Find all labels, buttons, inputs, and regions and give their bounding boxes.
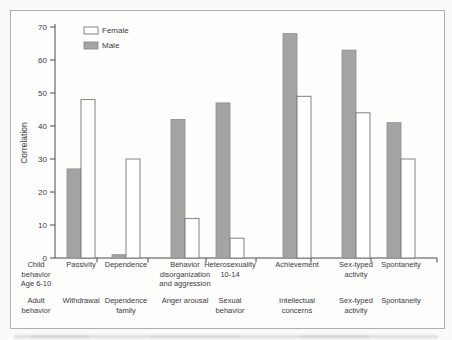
y-tick-label: 50 [38,89,47,98]
row-header-adult: Adult [27,296,45,305]
row-header-child: Age 6-10 [21,279,51,288]
child-behavior-label: and aggression [159,279,210,288]
row-header-child: Child [27,260,44,269]
y-tick-label: 10 [38,221,47,230]
y-tick-label: 60 [38,56,47,65]
child-behavior-label: Sex-typed [339,260,373,269]
adult-behavior-label: Withdrawal [62,296,99,305]
adult-behavior-label: family [116,306,136,315]
page-print-artifact [14,335,438,338]
bar-female-7 [401,159,415,258]
y-tick-label: 20 [38,188,47,197]
child-behavior-label: Spontaneity [381,260,421,269]
y-tick-label: 30 [38,155,47,164]
adult-behavior-label: Anger arousal [162,296,209,305]
legend-swatch-female [84,27,98,34]
bar-male-6 [342,50,356,258]
adult-behavior-label: activity [345,306,368,315]
y-axis-title: Correlation [19,122,29,164]
child-behavior-label: 10-14 [220,270,239,279]
legend-swatch-male [84,42,98,49]
bar-female-5 [297,96,311,258]
child-behavior-label: activity [345,270,368,279]
bar-male-1 [67,169,81,258]
bar-male-2 [112,255,126,258]
bar-female-3 [185,218,199,258]
row-header-adult: behavior [22,306,51,315]
y-tick-label: 40 [38,122,47,131]
correlation-bar-chart-figure: 010203040506070PassivityWithdrawalDepend… [0,0,452,340]
adult-behavior-label: behavior [216,306,245,315]
bar-male-3 [171,119,185,258]
adult-behavior-label: Dependence [105,296,148,305]
y-tick-label: 70 [38,23,47,32]
child-behavior-label: Achievement [275,260,319,269]
child-behavior-label: Behavior [170,260,200,269]
child-behavior-label: Passivity [66,260,96,269]
legend-label-female: Female [102,26,129,35]
adult-behavior-label: concerns [282,306,313,315]
bar-male-4 [216,103,230,258]
child-behavior-label: Heterosexuality [204,260,256,269]
bar-male-7 [387,123,401,258]
adult-behavior-label: Sex-typed [339,296,373,305]
row-header-child: behavior [22,270,51,279]
bar-female-1 [81,100,95,258]
bar-female-2 [126,159,140,258]
adult-behavior-label: Sexual [219,296,242,305]
bar-male-5 [283,34,297,258]
bar-female-6 [356,113,370,258]
child-behavior-label: Dependence [105,260,148,269]
child-behavior-label: disorganization [160,270,210,279]
adult-behavior-label: Intellectual [279,296,315,305]
legend-label-male: Male [102,41,120,50]
bar-female-4 [230,238,244,258]
chart-canvas: 010203040506070PassivityWithdrawalDepend… [0,0,452,340]
adult-behavior-label: Spontaneity [381,296,421,305]
